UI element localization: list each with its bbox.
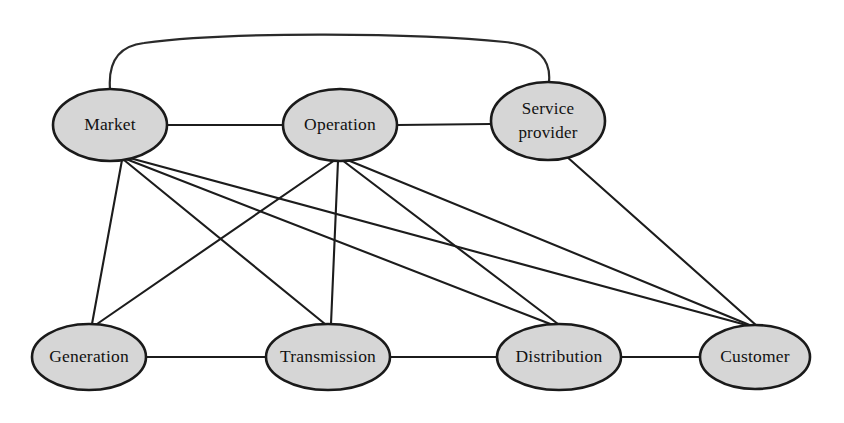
edge-operation-service-provider bbox=[397, 124, 491, 125]
node-generation[interactable]: Generation bbox=[32, 324, 146, 390]
edge-operation-transmission bbox=[331, 161, 338, 324]
node-customer[interactable]: Customer bbox=[700, 325, 810, 389]
edge-market-service-provider bbox=[110, 35, 549, 89]
graph-svg: Market Operation Service provider Genera… bbox=[0, 0, 844, 423]
node-generation-label: Generation bbox=[49, 346, 129, 366]
edge-market-distribution bbox=[126, 159, 553, 325]
node-market[interactable]: Market bbox=[53, 89, 167, 161]
edge-operation-distribution bbox=[342, 160, 558, 324]
edge-market-customer bbox=[126, 157, 750, 326]
node-market-label: Market bbox=[84, 114, 136, 134]
node-transmission-label: Transmission bbox=[280, 346, 376, 366]
diagram-canvas: Market Operation Service provider Genera… bbox=[0, 0, 844, 423]
node-operation[interactable]: Operation bbox=[283, 89, 397, 161]
edge-operation-customer bbox=[345, 159, 752, 326]
node-distribution-label: Distribution bbox=[516, 346, 603, 366]
edge-market-generation bbox=[92, 160, 122, 324]
node-distribution[interactable]: Distribution bbox=[497, 324, 621, 390]
node-service-provider-ellipse[interactable] bbox=[491, 82, 605, 160]
edge-service-provider-customer bbox=[566, 156, 757, 326]
node-transmission[interactable]: Transmission bbox=[266, 324, 390, 390]
node-service-provider-label-line2: provider bbox=[518, 123, 577, 142]
edge-operation-generation bbox=[97, 160, 335, 324]
node-operation-label: Operation bbox=[304, 114, 376, 134]
edge-layer bbox=[92, 35, 757, 357]
node-service-provider-label-line1: Service bbox=[522, 99, 574, 118]
node-service-provider[interactable]: Service provider bbox=[491, 82, 605, 160]
node-customer-label: Customer bbox=[720, 346, 790, 366]
